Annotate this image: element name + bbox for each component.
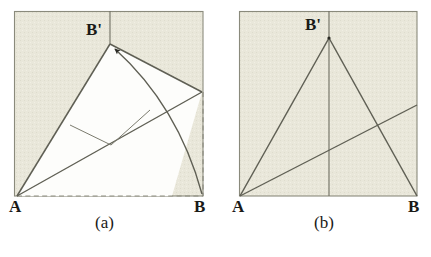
panel-a-caption: (a) (95, 214, 114, 231)
panel-a-label-B-prime: B' (86, 21, 102, 38)
panel-a-label-A: A (9, 198, 21, 215)
geometry-figure (0, 0, 431, 257)
panel-b-label-A: A (232, 198, 244, 215)
panel-b-label-B-prime: B' (305, 16, 321, 33)
panel-b (240, 11, 418, 196)
panel-b-caption: (b) (314, 214, 334, 231)
figure-root: A B B' (a) A B B' (b) (0, 0, 431, 257)
panel-b-label-B: B (408, 198, 419, 215)
panel-a-label-B: B (194, 198, 205, 215)
panel-a (15, 11, 204, 196)
panel-b-bprime-marker (327, 36, 330, 39)
